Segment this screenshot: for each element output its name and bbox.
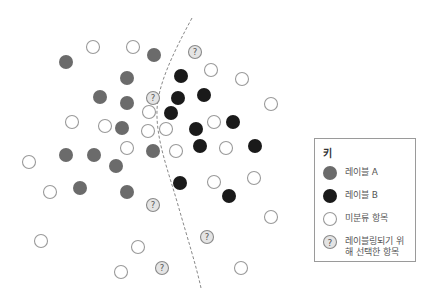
unlabeled-point bbox=[205, 64, 218, 77]
label-b-point bbox=[174, 69, 188, 83]
label-a-point bbox=[120, 185, 134, 199]
unlabeled-point bbox=[208, 176, 221, 189]
legend-label: 레이블링되기 위해 선택한 항목 bbox=[345, 234, 409, 258]
question-mark-icon: ? bbox=[193, 47, 198, 57]
label-a-point bbox=[120, 71, 134, 85]
label-a-point bbox=[93, 90, 107, 104]
label-b-point bbox=[222, 189, 236, 203]
label-b-point bbox=[197, 88, 211, 102]
query-point: ? bbox=[147, 199, 160, 212]
unlabeled-swatch-icon bbox=[322, 211, 338, 227]
unlabeled-point bbox=[265, 98, 278, 111]
query-point: ? bbox=[156, 262, 169, 275]
label-b-point bbox=[173, 176, 187, 190]
legend-item-query: ? 레이블링되기 위해 선택한 항목 bbox=[322, 234, 409, 258]
question-mark-icon: ? bbox=[151, 93, 156, 103]
unlabeled-point bbox=[127, 41, 140, 54]
unlabeled-point bbox=[236, 73, 249, 86]
unlabeled-point bbox=[66, 116, 79, 129]
label-a-point bbox=[87, 148, 101, 162]
label-b-point bbox=[226, 115, 240, 129]
query-point: ? bbox=[189, 46, 202, 59]
legend-label: 레이블 B bbox=[345, 188, 378, 201]
unlabeled-point bbox=[132, 241, 145, 254]
label-a-point bbox=[109, 159, 123, 173]
legend-item-label-b: 레이블 B bbox=[322, 188, 409, 204]
unlabeled-point bbox=[208, 116, 221, 129]
unlabeled-point bbox=[220, 142, 233, 155]
label-b-point bbox=[171, 91, 185, 105]
legend-label: 미분류 항목 bbox=[345, 211, 388, 224]
legend-title: 키 bbox=[323, 145, 409, 160]
label-a-swatch-icon bbox=[322, 165, 338, 181]
unlabeled-point bbox=[99, 120, 112, 133]
unlabeled-point bbox=[121, 142, 134, 155]
label-a-point bbox=[115, 121, 129, 135]
question-mark-swatch-icon: ? bbox=[322, 234, 338, 250]
label-b-point bbox=[164, 106, 178, 120]
label-b-point bbox=[189, 122, 203, 136]
question-mark-icon: ? bbox=[205, 232, 210, 242]
question-mark-icon: ? bbox=[151, 200, 156, 210]
label-a-point bbox=[59, 148, 73, 162]
label-a-point bbox=[146, 144, 160, 158]
legend-item-unlabeled: 미분류 항목 bbox=[322, 211, 409, 227]
unlabeled-point bbox=[235, 262, 248, 275]
unlabeled-point bbox=[170, 145, 183, 158]
query-point: ? bbox=[147, 92, 160, 105]
label-b-swatch-icon bbox=[322, 188, 338, 204]
label-b-point bbox=[248, 139, 262, 153]
label-a-point bbox=[147, 48, 161, 62]
label-a-point bbox=[59, 55, 73, 69]
legend-label: 레이블 A bbox=[345, 165, 378, 178]
unlabeled-point bbox=[115, 266, 128, 279]
unlabeled-point bbox=[265, 211, 278, 224]
query-point: ? bbox=[201, 231, 214, 244]
label-b-point bbox=[193, 139, 207, 153]
label-a-point bbox=[73, 181, 87, 195]
legend-box: 키 레이블 A 레이블 B 미분류 항목 ? 레이블링되기 위해 선택한 항목 bbox=[314, 138, 416, 262]
unlabeled-point bbox=[35, 235, 48, 248]
legend-item-label-a: 레이블 A bbox=[322, 165, 409, 181]
svg-text:?: ? bbox=[328, 238, 333, 248]
unlabeled-point bbox=[143, 106, 156, 119]
unlabeled-point bbox=[44, 186, 57, 199]
unlabeled-point bbox=[248, 172, 261, 185]
unlabeled-point bbox=[160, 123, 173, 136]
unlabeled-point bbox=[142, 125, 155, 138]
question-mark-icon: ? bbox=[160, 263, 165, 273]
unlabeled-point bbox=[87, 41, 100, 54]
unlabeled-point bbox=[23, 156, 36, 169]
label-a-point bbox=[120, 96, 134, 110]
